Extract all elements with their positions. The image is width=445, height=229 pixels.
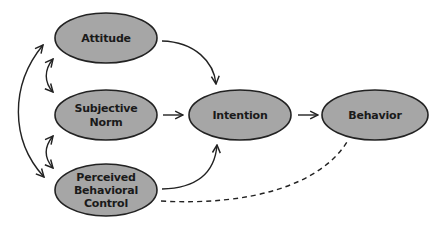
node-attitude: Attitude xyxy=(55,13,157,63)
node-label-line-3: Control xyxy=(84,197,128,210)
edge-pbc-to-intention xyxy=(162,145,217,189)
edge-attitude-subjective-norm-correlation xyxy=(46,59,53,92)
node-label: Behavior xyxy=(348,109,402,122)
node-intention: Intention xyxy=(189,90,291,140)
node-label-line-1: Perceived xyxy=(76,171,135,184)
edge-subjective-norm-pbc-correlation xyxy=(46,136,53,168)
theory-of-planned-behavior-diagram: Attitude Subjective Norm Perceived Behav… xyxy=(0,0,445,229)
node-perceived-behavioral-control: Perceived Behavioral Control xyxy=(55,164,157,216)
node-subjective-norm: Subjective Norm xyxy=(55,90,157,140)
node-label: Attitude xyxy=(81,32,131,45)
node-label-line-1: Subjective xyxy=(74,102,137,115)
edge-pbc-to-behavior-dashed xyxy=(161,142,347,202)
edge-attitude-pbc-correlation xyxy=(18,45,44,177)
node-label: Intention xyxy=(212,109,267,122)
node-label-line-2: Behavioral xyxy=(74,184,138,197)
edge-attitude-to-intention xyxy=(162,41,216,84)
node-label-line-2: Norm xyxy=(90,116,123,129)
node-behavior: Behavior xyxy=(322,90,428,140)
